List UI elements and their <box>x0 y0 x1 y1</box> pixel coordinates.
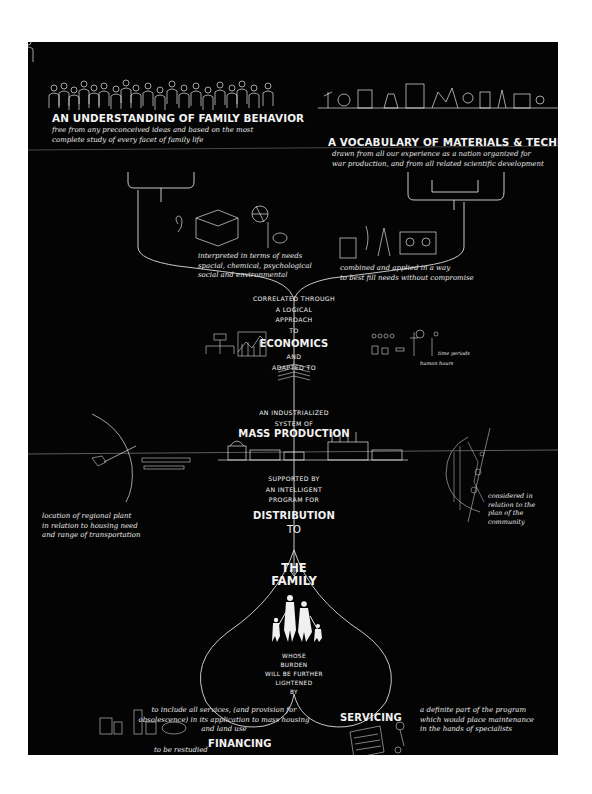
family-behavior-heading: AN UNDERSTANDING OF FAMILY BEHAVIOR <box>52 112 304 125</box>
note-line: and range of transportation <box>42 531 141 541</box>
note-line: considered in <box>488 492 535 501</box>
industrialized-text: AN INDUSTRIALIZED SYSTEM OF <box>234 408 354 429</box>
supported-text: SUPPORTED BY AN INTELLIGENT PROGRAM FOR <box>234 474 354 506</box>
distribution-to: TO <box>234 524 354 537</box>
community-note: considered in relation to the plan of th… <box>488 492 535 526</box>
subtext-line: war production, and from all related sci… <box>332 160 544 170</box>
human-hours-icon <box>372 330 438 356</box>
regional-plant-note: location of regional plant in relation t… <box>42 512 141 541</box>
laboratory-equipment-icon <box>318 84 558 108</box>
note-line: obsolescence) in its application to mass… <box>94 716 354 726</box>
caption-line: ADAPTED TO <box>234 363 354 374</box>
subtext-line: drawn from all our experience as a natio… <box>332 150 544 160</box>
economics-heading: ECONOMICS <box>234 338 354 351</box>
caption-line: PROGRAM FOR <box>234 495 354 506</box>
note-line: a definite part of the program <box>420 706 534 716</box>
burden-text: WHOSE BURDEN WILL BE FURTHER LIGHTENED B… <box>244 652 344 697</box>
caption-line: BURDEN <box>244 661 344 670</box>
human-hours-label: human hours <box>420 360 453 366</box>
caption-line: APPROACH <box>234 315 354 326</box>
note-line: to best fill needs without compromise <box>340 274 474 284</box>
family-heading: THE FAMILY <box>254 562 334 588</box>
subtext-line: complete study of every facet of family … <box>52 136 253 146</box>
note-line: relation to the <box>488 501 535 510</box>
caption-line: CORRELATED THROUGH <box>234 294 354 305</box>
family-figures-icon <box>272 595 322 642</box>
note-line: to be restudied <box>94 746 208 755</box>
servicing-note: a definite part of the program which wou… <box>420 706 534 735</box>
note-line: and land use <box>94 725 354 735</box>
family-behavior-subtext: free from any preconceived ideas and bas… <box>52 126 253 145</box>
regional-plant-icon <box>92 456 190 469</box>
caption-line: LIGHTENED <box>244 679 344 688</box>
poster-panel: AN UNDERSTANDING OF FAMILY BEHAVIOR free… <box>28 42 558 755</box>
materials-sketch-icon <box>340 226 436 258</box>
caption-line: AND <box>234 352 354 363</box>
correlated-text: CORRELATED THROUGH A LOGICAL APPROACH TO <box>234 294 354 336</box>
subtext-line: free from any preconceived ideas and bas… <box>52 126 253 136</box>
distribution-heading: DISTRIBUTION <box>234 510 354 523</box>
caption-line: WHOSE <box>244 652 344 661</box>
caption-line: AN INDUSTRIALIZED <box>234 408 354 419</box>
caption-line: WILL BE FURTHER <box>244 670 344 679</box>
note-line: plan of the <box>488 509 535 518</box>
note-line: location of regional plant <box>42 512 141 522</box>
caption-line: BY <box>244 688 344 697</box>
note-line: spacial, chemical, psychological <box>198 262 312 272</box>
note-line: social and environmental <box>198 271 312 281</box>
community-plan-icon <box>454 442 484 510</box>
caption-line: SUPPORTED BY <box>234 474 354 485</box>
note-line: in the hands of specialists <box>420 725 534 735</box>
financing-note-extra: to include all services, (and provision … <box>94 706 354 735</box>
economics-after: AND ADAPTED TO <box>234 352 354 373</box>
time-periods-label: time periods <box>438 350 470 356</box>
note-line: in relation to housing need <box>42 522 141 532</box>
caption-line: A LOGICAL <box>234 305 354 316</box>
note-line: to include all services, (and provision … <box>94 706 354 716</box>
materials-techniques-heading: A VOCABULARY OF MATERIALS & TECHNIQUES <box>328 136 558 149</box>
caption-line: AN INTELLIGENT <box>234 485 354 496</box>
note-line: combined and applied in a way <box>340 264 474 274</box>
financing-heading: FINANCING <box>208 738 272 751</box>
note-line: interpreted in terms of needs <box>198 252 312 262</box>
needs-note: interpreted in terms of needs spacial, c… <box>198 252 312 281</box>
financing-note: to be restudied <box>94 746 208 755</box>
servicing-sketch-icon <box>350 722 404 755</box>
crowd-of-people-icon <box>28 42 273 110</box>
heading-line: FAMILY <box>254 575 334 588</box>
materials-note: combined and applied in a way to best fi… <box>340 264 474 283</box>
note-line: community <box>488 518 535 527</box>
note-line: which would place maintenance <box>420 716 534 726</box>
mass-production-heading: MASS PRODUCTION <box>224 428 364 441</box>
needs-sketch-icon <box>176 206 287 248</box>
materials-techniques-subtext: drawn from all our experience as a natio… <box>332 150 544 169</box>
caption-line: TO <box>234 326 354 337</box>
